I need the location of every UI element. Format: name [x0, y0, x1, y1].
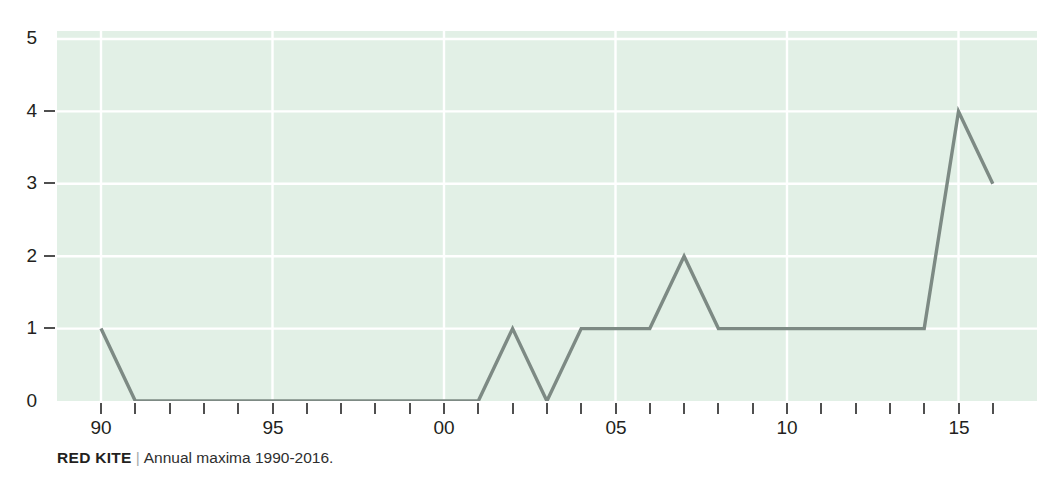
- clipped-header-text: [57, 0, 1037, 4]
- y-axis-tick-1: 1: [0, 318, 57, 338]
- x-axis-tickmark-2008: [717, 403, 719, 414]
- y-axis-label-2: 2: [9, 246, 37, 266]
- x-axis-tickmark-2016: [992, 403, 994, 414]
- horizontal-gridlines: [57, 39, 1037, 329]
- y-axis-tick-3: 3: [0, 173, 57, 193]
- x-axis-tickmark-2006: [649, 403, 651, 414]
- plot-area: [57, 31, 1037, 401]
- x-axis: 90 95 00 05 10 15: [57, 401, 1037, 445]
- caption-species: RED KITE: [57, 449, 132, 466]
- x-axis-tickmark-2014: [923, 403, 925, 414]
- y-axis-tickmark-2: [44, 255, 55, 257]
- x-axis-tickmark-2012: [855, 403, 857, 414]
- y-axis-tick-4: 4: [0, 101, 57, 121]
- y-axis-label-1: 1: [9, 318, 37, 338]
- x-axis-tickmark-1994: [237, 403, 239, 414]
- y-axis-label-5: 5: [9, 28, 37, 48]
- x-axis-label-15: 15: [936, 417, 982, 439]
- figure-caption: RED KITE|Annual maxima 1990-2016.: [57, 448, 333, 468]
- x-axis-tickmark-1995: [272, 403, 274, 414]
- x-axis-tickmark-1999: [409, 403, 411, 414]
- x-axis-tickmark-2011: [820, 403, 822, 414]
- x-axis-tickmark-2007: [683, 403, 685, 414]
- x-axis-tickmark-2005: [615, 403, 617, 414]
- x-axis-tickmark-2010: [786, 403, 788, 414]
- plot-svg: [57, 31, 1037, 401]
- x-axis-label-05: 05: [593, 417, 639, 439]
- x-axis-tickmark-2000: [443, 403, 445, 414]
- x-axis-tickmark-2004: [580, 403, 582, 414]
- x-axis-label-95: 95: [250, 417, 296, 439]
- x-axis-label-90: 90: [78, 417, 124, 439]
- y-axis-label-0: 0: [9, 391, 37, 411]
- x-axis-tickmark-2013: [889, 403, 891, 414]
- x-axis-tickmark-1997: [340, 403, 342, 414]
- caption-description: Annual maxima 1990-2016.: [144, 449, 334, 466]
- x-axis-label-00: 00: [421, 417, 467, 439]
- y-axis-tickmark-3: [44, 182, 55, 184]
- x-axis-tickmark-2009: [752, 403, 754, 414]
- x-axis-tickmark-2002: [512, 403, 514, 414]
- y-axis-tick-0: 0: [0, 391, 57, 411]
- x-axis-tickmark-1998: [374, 403, 376, 414]
- x-axis-tickmark-1996: [306, 403, 308, 414]
- y-axis-tickmark-4: [44, 110, 55, 112]
- x-axis-tickmark-2015: [958, 403, 960, 414]
- x-axis-tickmark-1992: [169, 403, 171, 414]
- x-axis-tickmark-1991: [134, 403, 136, 414]
- x-axis-tickmark-1990: [100, 403, 102, 414]
- x-axis-tickmark-2001: [477, 403, 479, 414]
- y-axis-tick-5: 5: [0, 28, 57, 48]
- chart-figure: 5 4 3 2 1 0 9: [0, 0, 1055, 482]
- y-axis: 5 4 3 2 1 0: [0, 0, 57, 482]
- caption-separator: |: [132, 449, 144, 466]
- vertical-gridlines: [101, 31, 959, 401]
- y-axis-label-4: 4: [9, 101, 37, 121]
- y-axis-tickmark-1: [44, 327, 55, 329]
- y-axis-label-3: 3: [9, 173, 37, 193]
- x-axis-label-10: 10: [764, 417, 810, 439]
- x-axis-tickmark-1993: [203, 403, 205, 414]
- y-axis-tick-2: 2: [0, 246, 57, 266]
- x-axis-tickmark-2003: [546, 403, 548, 414]
